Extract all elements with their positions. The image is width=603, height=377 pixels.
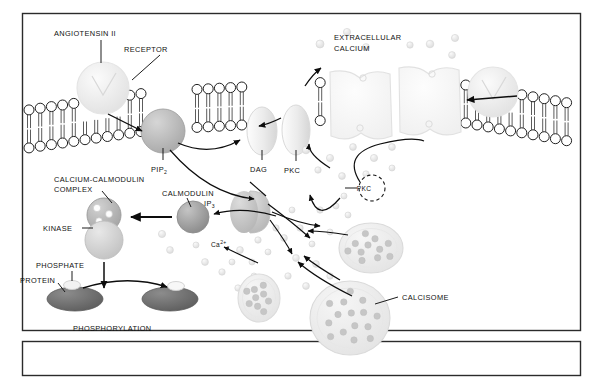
cytosolic-calcium-ion: [293, 255, 300, 262]
phospholipid-head: [69, 136, 79, 146]
cytosolic-calcium-ion: [285, 273, 291, 279]
phospholipid-head: [506, 126, 516, 136]
extracellular-calcium-ion: [339, 173, 346, 180]
phospholipid-head: [214, 83, 224, 93]
cytosolic-calcium-ion: [193, 242, 199, 248]
calcisome-calcium-dot: [340, 329, 346, 335]
cytosolic-calcium-ion: [303, 283, 310, 290]
phospholipid-head: [91, 133, 101, 143]
calcisome-calcium-dot: [365, 324, 371, 330]
extracellular-calcium-ion: [316, 40, 324, 48]
calcisome-calcium-dot: [385, 240, 391, 246]
extracellular-calcium-ion: [302, 146, 310, 154]
label-complex-line2: COMPLEX: [54, 185, 93, 194]
phospholipid-head: [315, 78, 325, 88]
dag-molecule: [247, 107, 277, 155]
phospholipid-head: [24, 143, 34, 153]
phospholipid-head: [539, 132, 549, 142]
label-calcisome: CALCISOME: [402, 293, 449, 302]
extracellular-calcium-ion: [426, 40, 434, 48]
extracellular-calcium-ion: [451, 34, 458, 41]
calcisome-calcium-dot: [374, 313, 380, 319]
calcisome-calcium-dot: [367, 335, 373, 341]
calcisome-calcium-dot: [348, 310, 354, 316]
pip2-molecule: [141, 109, 185, 153]
label-dag: DAG: [250, 165, 267, 174]
protein-phosphorylated: [142, 287, 198, 311]
phospholipid-head: [102, 132, 112, 142]
extracellular-calcium-ion: [370, 154, 377, 161]
calcisome-calcium-dot: [387, 253, 393, 259]
phospholipid-head: [58, 138, 68, 148]
label-extracellular-calcium-line2: CALCIUM: [334, 44, 370, 53]
extracellular-calcium-ion: [389, 165, 395, 171]
cytosolic-calcium-ion: [265, 249, 271, 255]
angiotensin-receptor-left: [77, 62, 129, 114]
label-phosphorylation: PHOSPHORYLATION: [73, 324, 152, 333]
calcisome-calcium-dot: [360, 297, 366, 303]
extracellular-calcium-ion: [315, 167, 321, 173]
label-pkc-cytosol: PKC: [357, 185, 372, 192]
calcisome-calcium-dot: [246, 300, 252, 306]
label-pkc-membrane: PKC: [284, 166, 301, 175]
phospholipid-head: [226, 83, 236, 93]
calcisome-calcium-dot: [261, 308, 267, 314]
calcisome-calcium-dot: [335, 311, 341, 317]
phospholipid-head: [46, 102, 56, 112]
calcisome-calcium-dot: [372, 236, 378, 242]
cytosolic-calcium-ion: [167, 247, 174, 254]
phospholipid-head: [528, 130, 538, 140]
phospholipid-head: [539, 94, 549, 104]
calcisome-calcium-dot: [341, 299, 347, 305]
phospholipid-head: [483, 122, 493, 132]
phosphate-group-bound: [168, 282, 185, 291]
calcisome-calcium-dot: [352, 323, 358, 329]
cytosolic-calcium-ion: [237, 247, 244, 254]
phospholipid-head: [315, 116, 325, 126]
cytosolic-calcium-ion: [255, 237, 261, 243]
phospholipid-head: [35, 141, 45, 151]
calcisome-calcium-dot: [359, 257, 365, 263]
phospholipid-head: [203, 122, 213, 132]
label-phosphate: PHOSPHATE: [36, 261, 84, 270]
phospholipid-head: [192, 84, 202, 94]
calcisome-calcium-dot: [326, 320, 332, 326]
phospholipid-head: [35, 103, 45, 113]
label-angiotensin: ANGIOTENSIN II: [54, 29, 116, 38]
cytosolic-calcium-ion: [289, 207, 295, 213]
phospholipid-head: [226, 121, 236, 131]
calcisome-calcium-dot: [254, 303, 260, 309]
phospholipid-head: [562, 136, 572, 146]
calcisome-calcium-dot: [326, 300, 332, 306]
label-receptor: RECEPTOR: [124, 45, 168, 54]
label-extracellular-calcium-line1: EXTRACELLULAR: [334, 33, 401, 42]
cytosolic-calcium-ion: [229, 259, 235, 265]
calcisome-calcium-dot: [327, 333, 333, 339]
phospholipid-head: [69, 98, 79, 108]
figure-stage: ANGIOTENSIN II RECEPTOR PIP2 DAG PKC EXT…: [0, 0, 603, 377]
extracellular-calcium-ion: [389, 144, 396, 151]
calcisome-calcium-dot: [352, 240, 358, 246]
cytosolic-calcium-ion: [202, 259, 209, 266]
cytosolic-calcium-ion: [341, 193, 347, 199]
calcisome-calcium-dot: [377, 246, 383, 252]
cytosolic-calcium-ion: [309, 241, 315, 247]
label-kinase: KINASE: [43, 224, 72, 233]
phospholipid-head: [125, 128, 135, 138]
kinase-molecule: [85, 221, 123, 259]
phospholipid-head: [528, 92, 538, 102]
protein-unphosphorylated: [47, 287, 103, 311]
calcisome-calcium-dot: [362, 230, 368, 236]
phospholipid-head: [114, 130, 124, 140]
calcisome-calcium-dot: [365, 242, 371, 248]
calcisome-calcium-dot: [351, 337, 357, 343]
phospholipid-head: [80, 135, 90, 145]
phospholipid-head: [24, 105, 34, 115]
calcisome-calcium-dot: [260, 282, 266, 288]
phospholipid-head: [214, 121, 224, 131]
calcisome-calcium-dot: [345, 248, 351, 254]
cytosolic-calcium-ion: [345, 212, 351, 218]
phospholipid-head: [517, 128, 527, 138]
calcisome-calcium-dot: [358, 249, 364, 255]
extracellular-calcium-ion: [407, 42, 413, 48]
